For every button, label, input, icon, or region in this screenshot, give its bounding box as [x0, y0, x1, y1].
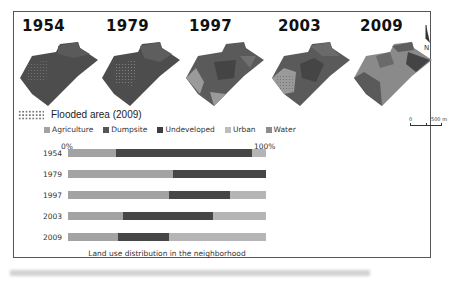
bar-row-1954: 1954 [14, 149, 430, 158]
bar-track [68, 212, 266, 220]
bar-segment-agriculture [68, 191, 169, 199]
year-label-1954: 1954 [22, 17, 65, 35]
bar-segment-undeveloped [173, 170, 266, 178]
legend-label: Water [274, 125, 296, 134]
bar-row-1997: 1997 [14, 191, 430, 200]
map-2009 [352, 42, 434, 108]
figure-caption-blurred [10, 268, 370, 278]
legend-label: Dumpsite [111, 125, 147, 134]
north-arrow-icon: N [421, 25, 433, 51]
bar-segment-urban [213, 212, 266, 220]
bar-year-label: 1979 [32, 170, 62, 179]
bar-track [68, 191, 266, 199]
bar-year-label: 1997 [32, 191, 62, 200]
undeveloped-swatch-icon [157, 127, 163, 133]
legend-label: Urban [233, 125, 256, 134]
map-1954 [18, 42, 100, 108]
bar-year-label: 1954 [32, 149, 62, 158]
agriculture-swatch-icon [44, 127, 50, 133]
legend-item-undeveloped: Undeveloped [157, 125, 214, 134]
bar-segment-agriculture [68, 233, 118, 241]
year-label-1997: 1997 [189, 17, 232, 35]
map-1979 [100, 42, 182, 108]
legend-item-agriculture: Agriculture [44, 125, 93, 134]
legend-item-urban: Urban [225, 125, 256, 134]
water-swatch-icon [266, 127, 272, 133]
bar-segment-undeveloped [116, 149, 253, 157]
bar-year-label: 2009 [32, 233, 62, 242]
bar-segment-agriculture [68, 149, 116, 157]
bar-track [68, 233, 266, 241]
scale-end-label: 500 m [431, 116, 447, 122]
bar-segment-urban [230, 191, 266, 199]
bar-row-1979: 1979 [14, 170, 430, 179]
bar-row-2003: 2003 [14, 212, 430, 221]
scale-bar: 0 500 m [409, 116, 449, 130]
bar-segment-urban [252, 149, 266, 157]
map-1997 [184, 42, 266, 108]
chart-title: Land use distribution in the neighborhoo… [68, 249, 266, 258]
bar-segment-undeveloped [118, 233, 169, 241]
bar-year-label: 2003 [32, 212, 62, 221]
flood-legend: Flooded area (2009) [18, 109, 142, 120]
bar-segment-undeveloped [123, 212, 212, 220]
map-2003 [270, 42, 352, 108]
bar-segment-undeveloped [169, 191, 230, 199]
bar-track [68, 149, 266, 157]
bar-track [68, 170, 266, 178]
scale-start-label: 0 [409, 116, 412, 122]
land-use-legend: Agriculture Dumpsite Undeveloped Urban W… [44, 125, 296, 134]
figure-frame: 1954 1979 1997 2003 2009 [13, 11, 431, 258]
flood-legend-label: Flooded area (2009) [51, 109, 142, 120]
bar-segment-agriculture [68, 170, 173, 178]
dumpsite-swatch-icon [103, 127, 109, 133]
legend-item-dumpsite: Dumpsite [103, 125, 147, 134]
bar-segment-agriculture [68, 212, 123, 220]
legend-label: Undeveloped [165, 125, 214, 134]
legend-item-water: Water [266, 125, 296, 134]
bar-segment-urban [169, 233, 266, 241]
legend-label: Agriculture [52, 125, 93, 134]
flood-dot-pattern-icon [18, 110, 44, 120]
year-label-2003: 2003 [278, 17, 321, 35]
year-label-2009: 2009 [360, 17, 403, 35]
year-label-1979: 1979 [106, 17, 149, 35]
urban-swatch-icon [225, 127, 231, 133]
svg-text:N: N [424, 44, 429, 51]
bar-row-2009: 2009 [14, 233, 430, 242]
